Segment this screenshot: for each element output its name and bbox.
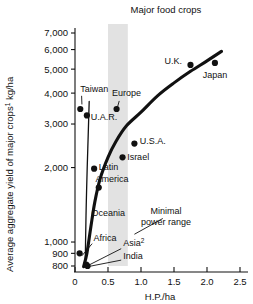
data-label-israel: Israel xyxy=(127,152,149,162)
y-tick-label-800: 800 xyxy=(52,260,68,271)
chart-figure: 8009001,0002,0003,0004,0005,0006,0007,00… xyxy=(0,0,253,304)
data-point-u-a-r xyxy=(84,112,90,118)
data-point-latin-america xyxy=(91,166,97,172)
x-tick-label-0: 0 xyxy=(72,276,77,287)
y-tick-label-7000: 7,000 xyxy=(44,27,68,38)
y-tick-label-5000: 5,000 xyxy=(44,64,68,75)
y-axis-title: Average aggregate yield of major crops1 … xyxy=(4,76,15,272)
data-label-asia: Asia2 xyxy=(123,237,145,248)
data-point-israel xyxy=(119,154,125,160)
data-point-japan xyxy=(212,60,218,66)
data-point-u-k xyxy=(187,62,193,68)
annotation-minimal-power-range: Minimalpower range xyxy=(141,206,191,227)
y-tick-label-6000: 6,000 xyxy=(44,44,68,55)
data-point-africa xyxy=(77,250,83,256)
data-point-u-s-a xyxy=(131,141,137,147)
minimal-power-range-band xyxy=(108,24,128,266)
data-point-india xyxy=(84,263,90,269)
svg-text:Average aggregate yield of maj: Average aggregate yield of major crops1 … xyxy=(4,76,15,272)
x-tick-label-2.5: 2.5 xyxy=(233,276,246,287)
data-label-u-k: U.K. xyxy=(164,56,182,66)
chart-title: Major food crops xyxy=(131,4,202,15)
data-label-taiwan: Taiwan xyxy=(80,84,108,94)
y-tick-label-1000: 1,000 xyxy=(44,236,68,247)
data-label-india: India xyxy=(123,251,143,261)
data-point-europe xyxy=(113,106,119,112)
y-tick-label-2000: 2,000 xyxy=(44,162,68,173)
major-food-crops-scatter-chart: 8009001,0002,0003,0004,0005,0006,0007,00… xyxy=(0,0,253,304)
x-axis-title: H.P./ha xyxy=(145,291,176,302)
data-label-japan: Japan xyxy=(203,70,228,80)
x-tick-label-1.0: 1.0 xyxy=(134,276,147,287)
x-tick-label-1.5: 1.5 xyxy=(167,276,180,287)
x-tick-label-2.0: 2.0 xyxy=(200,276,213,287)
data-label-oceania: Oceania xyxy=(92,208,126,218)
y-tick-label-3000: 3,000 xyxy=(44,118,68,129)
data-label-africa: Africa xyxy=(93,233,116,243)
y-tick-label-900: 900 xyxy=(52,248,68,259)
x-tick-label-0.5: 0.5 xyxy=(101,276,114,287)
data-label-europe: Europe xyxy=(112,88,141,98)
data-point-oceania xyxy=(96,184,102,190)
y-tick-label-4000: 4,000 xyxy=(44,88,68,99)
data-label-u-a-r: U.A.R. xyxy=(91,112,118,122)
data-point-taiwan xyxy=(77,106,83,112)
data-label-latin-america: Latin xyxy=(99,162,119,172)
data-label-america: America xyxy=(95,174,128,184)
data-label-u-s-a: U.S.A. xyxy=(140,136,166,146)
